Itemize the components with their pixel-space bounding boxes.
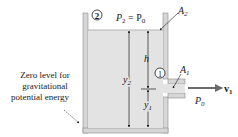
svg-text:2: 2: [95, 11, 100, 21]
svg-text:gravitational: gravitational: [22, 81, 68, 91]
svg-text:potential energy: potential energy: [11, 92, 70, 102]
tank-diagram: 2 1 P2 = P0 A2 A1 h y2 y1 v1 P0 Zero lev…: [0, 0, 238, 137]
zero-level-note: Zero level for gravitational potential e…: [11, 70, 79, 123]
point-2-marker: 2: [92, 10, 102, 21]
velocity-v1-label: v1: [224, 83, 233, 96]
svg-text:Zero level for: Zero level for: [20, 70, 69, 80]
height-h-label: h: [144, 53, 149, 64]
zero-level-pointer: [64, 110, 79, 123]
svg-text:1: 1: [158, 70, 162, 79]
point-1-marker: 1: [155, 68, 165, 79]
area-a2-pointer: [160, 13, 178, 30]
outlet-pressure-label: P0: [194, 95, 205, 108]
area-a2-label: A2: [177, 5, 188, 18]
pressure-top-label: P2 = P0: [115, 12, 146, 25]
